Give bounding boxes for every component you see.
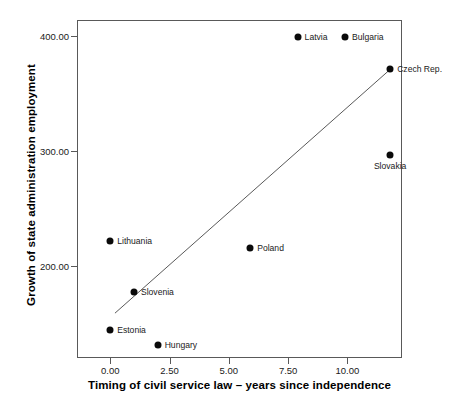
data-point-label: Slovenia [141, 287, 174, 297]
x-tick-mark [347, 358, 348, 364]
data-point[interactable] [154, 342, 161, 349]
plot-panel [77, 20, 402, 358]
x-tick-label: 7.50 [279, 365, 298, 376]
scatter-plot-figure: Growth of state administration employmen… [0, 0, 468, 406]
x-tick-mark [288, 358, 289, 364]
y-tick-label: 400.00 [40, 31, 69, 42]
x-tick-label: 0.00 [101, 365, 120, 376]
data-point-label: Lithuania [117, 236, 152, 246]
data-point[interactable] [107, 237, 114, 244]
y-tick-label: 200.00 [40, 261, 69, 272]
x-tick-label: 2.50 [160, 365, 179, 376]
data-point-label: Latvia [305, 32, 328, 42]
data-point-label: Hungary [165, 340, 197, 350]
x-axis-title: Timing of civil service law – years sinc… [77, 379, 402, 391]
x-tick-mark [229, 358, 230, 364]
y-tick-mark [71, 151, 77, 152]
data-point-label: Slovakia [374, 161, 406, 171]
y-tick-label: 300.00 [40, 146, 69, 157]
x-tick-mark [170, 358, 171, 364]
data-point[interactable] [247, 244, 254, 251]
data-point[interactable] [387, 151, 394, 158]
x-tick-label: 10.00 [336, 365, 360, 376]
data-point-label: Estonia [117, 325, 146, 335]
y-tick-mark [71, 266, 77, 267]
y-tick-mark [71, 36, 77, 37]
data-point-label: Czech Rep. [397, 64, 442, 74]
data-point-label: Bulgaria [352, 32, 384, 42]
data-point[interactable] [342, 34, 349, 41]
data-point[interactable] [387, 66, 394, 73]
y-axis-title: Growth of state administration employmen… [22, 15, 40, 355]
data-point[interactable] [107, 327, 114, 334]
data-point[interactable] [294, 34, 301, 41]
x-tick-mark [110, 358, 111, 364]
data-point-label: Poland [257, 243, 284, 253]
data-point[interactable] [130, 289, 137, 296]
x-tick-label: 5.00 [220, 365, 239, 376]
